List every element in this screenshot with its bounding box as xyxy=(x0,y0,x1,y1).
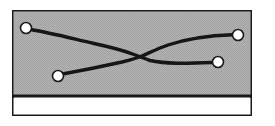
node-n4[interactable] xyxy=(213,57,224,68)
node-n1[interactable] xyxy=(21,23,32,34)
network-diagram-svg xyxy=(0,0,275,126)
node-n3[interactable] xyxy=(233,30,244,41)
figure-container xyxy=(0,0,275,126)
node-n2[interactable] xyxy=(53,71,64,82)
lower-white-panel xyxy=(14,98,251,115)
